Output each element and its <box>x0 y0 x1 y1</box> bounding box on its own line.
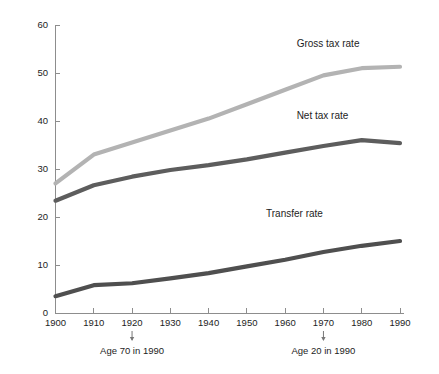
y-axis-ticks: 0102030405060 <box>37 19 60 318</box>
annotations-layer: Age 70 in 1990Age 20 in 1990 <box>100 331 355 356</box>
series-labels: Gross tax rateNet tax rateTransfer rate <box>266 38 360 219</box>
y-tick-label: 50 <box>37 67 48 78</box>
series-label-transfer-rate: Transfer rate <box>266 208 323 219</box>
y-tick-label: 30 <box>37 163 48 174</box>
line-chart-canvas: 0102030405060 19001910192019301940195019… <box>0 0 439 374</box>
y-tick-label: 10 <box>37 259 48 270</box>
x-tick-label: 1910 <box>83 317 104 328</box>
annotation-arrow-icon <box>130 337 134 341</box>
y-tick-label: 60 <box>37 19 48 30</box>
x-tick-label: 1940 <box>198 317 219 328</box>
x-tick-label: 1990 <box>389 317 410 328</box>
x-tick-label: 1960 <box>275 317 296 328</box>
series-line-gross-tax-rate <box>56 67 401 184</box>
x-tick-label: 1980 <box>351 317 372 328</box>
series-label-gross-tax-rate: Gross tax rate <box>297 38 360 49</box>
series-label-net-tax-rate: Net tax rate <box>297 110 349 121</box>
y-tick-label: 20 <box>37 211 48 222</box>
x-tick-label: 1970 <box>313 317 334 328</box>
series-line-transfer-rate <box>56 241 401 296</box>
series-layer <box>56 67 401 296</box>
y-tick-label: 40 <box>37 115 48 126</box>
annotation-label: Age 70 in 1990 <box>100 345 164 356</box>
x-axis-ticks: 1900191019201930194019501960197019801990 <box>45 308 411 328</box>
chart-figure: 0102030405060 19001910192019301940195019… <box>0 0 439 374</box>
x-tick-label: 1900 <box>45 317 66 328</box>
annotation-label: Age 20 in 1990 <box>291 345 355 356</box>
annotation-arrow-icon <box>321 337 325 341</box>
x-tick-label: 1930 <box>160 317 181 328</box>
x-tick-label: 1920 <box>121 317 142 328</box>
x-tick-label: 1950 <box>236 317 257 328</box>
